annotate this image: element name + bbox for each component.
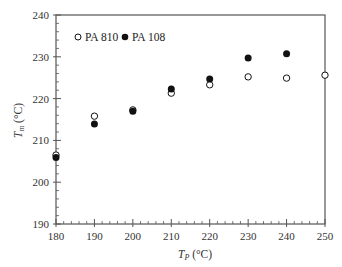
svg-text:Tm (°C): Tm (°C) bbox=[12, 103, 26, 138]
x-tick-label: 190 bbox=[86, 230, 103, 242]
plot-axes bbox=[56, 15, 325, 224]
legend-label-pa810: PA 810 bbox=[85, 31, 118, 43]
filled-circle-marker bbox=[129, 108, 136, 115]
filled-circle-marker bbox=[168, 85, 175, 92]
data-points bbox=[53, 50, 329, 161]
filled-circle-marker bbox=[91, 121, 98, 128]
plot-frame bbox=[56, 15, 325, 224]
legend-filled-circle-icon bbox=[122, 34, 129, 41]
y-tick-label: 190 bbox=[33, 218, 50, 230]
x-axis-ticks: 180190200210220230240250 bbox=[48, 219, 334, 242]
x-tick-label: 200 bbox=[125, 230, 142, 242]
open-circle-marker bbox=[91, 113, 97, 119]
x-tick-label: 220 bbox=[201, 230, 218, 242]
x-tick-label: 210 bbox=[163, 230, 180, 242]
y-tick-label: 240 bbox=[33, 9, 50, 21]
y-axis-label-unit: (°C) bbox=[12, 103, 25, 126]
open-circle-marker bbox=[245, 74, 251, 80]
open-circle-marker bbox=[207, 82, 213, 88]
filled-circle-marker bbox=[206, 75, 213, 82]
x-axis-label-unit: (°C) bbox=[189, 248, 212, 261]
x-tick-label: 230 bbox=[240, 230, 257, 242]
legend: PA 810 PA 108 bbox=[75, 31, 165, 43]
x-tick-label: 250 bbox=[317, 230, 334, 242]
filled-circle-marker bbox=[53, 154, 60, 161]
legend-open-circle-icon bbox=[75, 34, 81, 40]
x-tick-label: 180 bbox=[48, 230, 65, 242]
x-axis-label: TP (°C) bbox=[178, 248, 212, 262]
y-tick-label: 200 bbox=[33, 176, 50, 188]
svg-text:TP (°C): TP (°C) bbox=[178, 248, 212, 262]
series-pa-108 bbox=[53, 50, 291, 161]
legend-label-pa108: PA 108 bbox=[132, 31, 165, 43]
y-tick-label: 210 bbox=[33, 134, 50, 146]
y-tick-label: 220 bbox=[33, 93, 50, 105]
filled-circle-marker bbox=[283, 50, 290, 57]
series-pa-810 bbox=[53, 72, 328, 158]
scatter-chart: 190200210220230240 180190200210220230240… bbox=[0, 0, 342, 267]
y-axis-label: Tm (°C) bbox=[12, 103, 26, 138]
x-tick-label: 240 bbox=[278, 230, 295, 242]
y-tick-label: 230 bbox=[33, 51, 50, 63]
open-circle-marker bbox=[322, 72, 328, 78]
y-axis-ticks: 190200210220230240 bbox=[33, 9, 62, 230]
open-circle-marker bbox=[283, 75, 289, 81]
filled-circle-marker bbox=[245, 55, 252, 62]
